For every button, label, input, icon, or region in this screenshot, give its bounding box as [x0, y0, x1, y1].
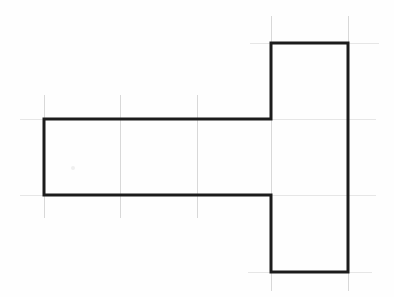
geometric-figure	[0, 0, 394, 297]
drawing-canvas	[0, 0, 394, 297]
paper-speck-mark	[71, 166, 75, 170]
